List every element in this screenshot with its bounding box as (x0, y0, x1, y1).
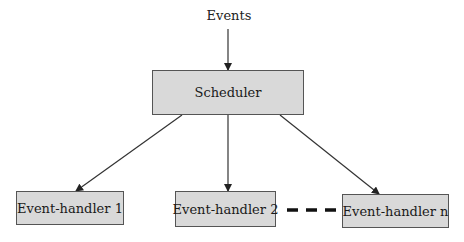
event-handler-n-label: Event-handler n (343, 204, 449, 219)
event-handler-2-label: Event-handler 2 (173, 202, 279, 217)
events-label: Events (199, 8, 259, 23)
arrow-to-handler-n (280, 115, 379, 194)
scheduler-label: Scheduler (194, 85, 261, 100)
scheduler-box: Scheduler (152, 70, 304, 115)
arrow-to-handler-1 (76, 115, 182, 191)
event-handler-2-box: Event-handler 2 (175, 191, 276, 227)
event-handler-n-box: Event-handler n (342, 194, 449, 228)
event-handler-1-box: Event-handler 1 (16, 191, 124, 225)
event-handler-1-label: Event-handler 1 (17, 201, 123, 216)
